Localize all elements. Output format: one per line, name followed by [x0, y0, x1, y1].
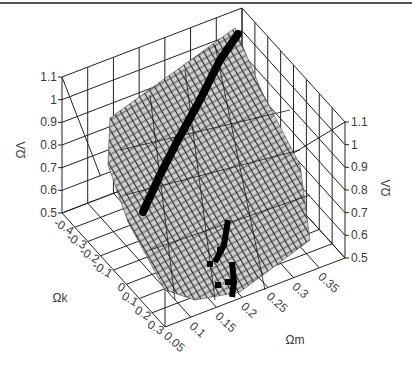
z-tick-left: 0.7 — [40, 161, 57, 175]
z-axis-title-right: ΩΛ — [379, 180, 393, 197]
z-tick-right: 0.9 — [351, 160, 368, 174]
z-tick-left: 1.1 — [40, 70, 57, 84]
z-tick-left: 0.5 — [40, 206, 57, 220]
z-tick-right: 0.7 — [351, 206, 368, 220]
z-tick-right: 1.1 — [351, 115, 368, 129]
z-tick-left: 0.6 — [40, 183, 57, 197]
m-tick: 0.2 — [238, 299, 260, 321]
m-tick: 0.35 — [315, 270, 342, 296]
m-tick: 0.05 — [161, 329, 188, 355]
m-tick: 0.25 — [264, 289, 291, 315]
z-tick-right: 0.8 — [351, 183, 368, 197]
k-axis-title: Ωk — [53, 291, 69, 305]
m-tick: 0.3 — [290, 280, 312, 302]
surface-plot-3d: 1.110.90.80.70.60.51.110.90.80.70.60.5-0… — [0, 0, 412, 375]
m-axis-title: Ωm — [286, 333, 305, 347]
z-axis-title-left: ΩΛ — [14, 142, 28, 159]
m-tick: 0.1 — [187, 319, 209, 341]
z-tick-right: 0.5 — [351, 251, 368, 265]
z-tick-left: 0.8 — [40, 138, 57, 152]
z-tick-left: 0.9 — [40, 115, 57, 129]
z-tick-right: 1 — [351, 138, 358, 152]
z-tick-left: 1 — [50, 93, 57, 107]
z-tick-right: 0.6 — [351, 228, 368, 242]
m-tick: 0.15 — [212, 309, 239, 335]
